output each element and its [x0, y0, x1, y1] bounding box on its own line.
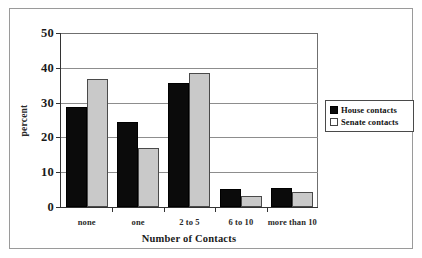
bar-senate[interactable]: [87, 79, 108, 207]
bar-chart-figure: percent 01020304050noneone2 to 56 to 10m…: [0, 0, 422, 258]
x-axis-title: Number of Contacts: [60, 233, 318, 244]
bar-group: [267, 33, 318, 207]
chart-legend: House contacts Senate contacts: [325, 100, 414, 132]
bar-senate[interactable]: [292, 192, 313, 207]
bar-group: [215, 33, 266, 207]
x-tick-label: 6 to 10: [229, 217, 254, 227]
legend-item-senate: Senate contacts: [330, 116, 409, 128]
bar-senate[interactable]: [241, 196, 262, 207]
x-tick-mark: [164, 207, 165, 212]
legend-swatch-house-icon: [330, 106, 338, 114]
y-tick-label: 20: [41, 130, 54, 145]
y-tick-label: 50: [41, 26, 54, 41]
bar-house[interactable]: [66, 107, 87, 207]
bar-house[interactable]: [117, 122, 138, 207]
bar-senate[interactable]: [189, 73, 210, 207]
x-tick-mark: [215, 207, 216, 212]
x-tick-label: one: [132, 217, 145, 227]
bar-house[interactable]: [168, 83, 189, 207]
bar-group: [164, 33, 215, 207]
y-tick-label: 40: [41, 60, 54, 75]
legend-item-house: House contacts: [330, 104, 409, 116]
bar-house[interactable]: [220, 189, 241, 207]
y-tick-label: 10: [41, 165, 54, 180]
x-tick-mark: [267, 207, 268, 212]
plot-area: 01020304050noneone2 to 56 to 10more than…: [60, 33, 318, 208]
bar-house[interactable]: [271, 188, 292, 207]
y-tick-label: 30: [41, 95, 54, 110]
legend-swatch-senate-icon: [330, 118, 338, 126]
bar-senate[interactable]: [138, 148, 159, 207]
x-tick-label: none: [78, 217, 96, 227]
y-tick-label: 0: [48, 200, 54, 215]
y-tick-mark: [56, 207, 61, 208]
legend-label-house: House contacts: [341, 105, 397, 115]
x-tick-label: 2 to 5: [179, 217, 199, 227]
y-axis-title: percent: [17, 33, 31, 208]
x-tick-label: more than 10: [268, 217, 317, 227]
bar-group: [112, 33, 163, 207]
bar-group: [61, 33, 112, 207]
legend-label-senate: Senate contacts: [341, 117, 398, 127]
x-tick-mark: [112, 207, 113, 212]
